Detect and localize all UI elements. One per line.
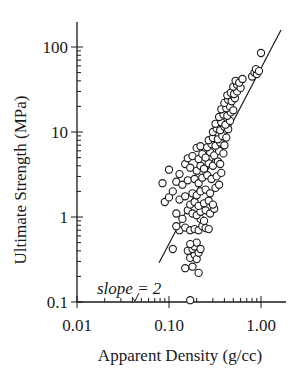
data-point — [159, 180, 166, 187]
data-point — [176, 171, 183, 178]
data-point — [197, 143, 204, 150]
y-tick-label: 1 — [60, 208, 69, 227]
data-point — [173, 223, 180, 230]
x-tick-label: 0.10 — [154, 316, 184, 335]
data-point — [169, 188, 176, 195]
data-point — [205, 226, 212, 233]
data-point — [165, 166, 172, 173]
y-tick-label: 0.1 — [47, 293, 68, 312]
axes — [71, 22, 286, 308]
data-point — [173, 210, 180, 217]
data-point — [189, 263, 196, 270]
data-point — [220, 150, 227, 157]
data-point — [230, 107, 237, 114]
y-tick-label: 100 — [43, 38, 69, 57]
data-point — [200, 217, 207, 224]
y-axis-title: Ultimate Strength (MPa) — [11, 95, 30, 264]
data-point — [184, 177, 191, 184]
data-point — [187, 297, 194, 304]
data-point — [223, 134, 230, 141]
data-point — [169, 245, 176, 252]
data-point — [187, 241, 194, 248]
data-point — [255, 68, 262, 75]
x-tick-label: 0.01 — [62, 316, 92, 335]
data-point — [179, 215, 186, 222]
data-point — [257, 49, 264, 56]
data-point — [216, 181, 223, 188]
data-point — [182, 265, 189, 272]
data-point — [182, 193, 189, 200]
y-tick-label: 10 — [51, 123, 68, 142]
scatter-chart: 0.11101000.010.101.00 Apparent Density (… — [0, 0, 303, 385]
x-axis-title: Apparent Density (g/cc) — [98, 346, 262, 365]
slope-annotation: slope = 2 — [97, 279, 162, 298]
data-point — [217, 160, 224, 167]
data-point — [209, 201, 216, 208]
data-points — [159, 49, 265, 303]
data-point — [221, 142, 228, 149]
x-tick-label: 1.00 — [246, 316, 276, 335]
data-point — [218, 169, 225, 176]
data-point — [239, 75, 246, 82]
data-point — [195, 269, 202, 276]
